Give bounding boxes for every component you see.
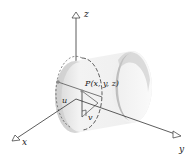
point-p-dot [80, 89, 83, 92]
cylinder-diagram: z x y P(x, y, z) u v [0, 0, 185, 155]
z-axis-arrowhead [72, 12, 80, 18]
x-axis-label: x [22, 137, 27, 147]
point-p-label: P(x, y, z) [84, 79, 119, 88]
u-endpoint-dot [56, 80, 60, 84]
y-axis-label: y [178, 144, 185, 154]
z-axis-label: z [83, 9, 89, 19]
x-axis-arrowhead [12, 135, 20, 141]
u-parameter-label: u [62, 96, 67, 105]
v-parameter-label: v [88, 113, 93, 122]
y-axis-arrowhead [173, 131, 181, 138]
